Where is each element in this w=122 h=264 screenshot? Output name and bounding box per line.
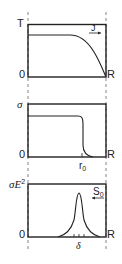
y-axis-label: σE2 [9, 178, 25, 190]
origin-label: 0 [19, 228, 25, 240]
panel-frame [28, 104, 106, 157]
delta-label: δ [76, 240, 81, 251]
temperature-curve [28, 35, 106, 77]
origin-label: 0 [19, 68, 25, 80]
arrow-head-icon [98, 32, 101, 35]
panel-conductivity: σ 0 R r0 [17, 98, 115, 172]
flux-label: J [91, 23, 96, 33]
poynting-label: S0 [93, 186, 104, 198]
diagram-canvas: T 0 R J σ 0 R r0 σE2 0 R δ S0 [0, 0, 122, 264]
panel-temperature: T 0 R J [17, 17, 115, 80]
y-axis-label: σ [17, 98, 23, 110]
y-axis-label: T [17, 17, 24, 29]
panel-dissipation: σE2 0 R δ S0 [9, 178, 115, 251]
dissipation-peak-curve [58, 193, 100, 237]
x-end-label: R [107, 228, 115, 240]
origin-label: 0 [19, 148, 25, 160]
r0-label: r0 [79, 160, 86, 172]
x-end-label: R [107, 148, 115, 160]
conductivity-curve [28, 116, 93, 157]
x-end-label: R [107, 68, 115, 80]
